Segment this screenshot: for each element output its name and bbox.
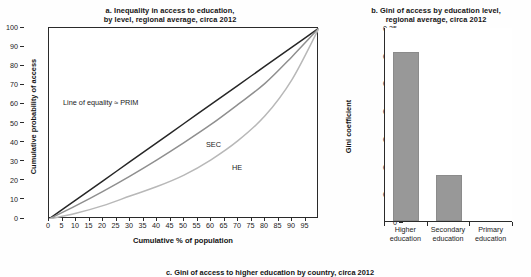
tick-mark — [20, 141, 24, 142]
panel-a-x-tick: 50 — [179, 221, 187, 230]
panel-b-gini-bars: b. Gini of access by education level, re… — [340, 0, 531, 255]
panel-a-y-tick: 100 — [0, 23, 18, 32]
panel-a-lorenz-curves: a. Inequality in access to education, by… — [0, 0, 340, 255]
panel-c-cutoff-title: c. Gini of access to higher education by… — [130, 268, 410, 277]
tick-mark — [20, 65, 24, 66]
tick-mark — [20, 84, 24, 85]
annotation-sec: SEC — [206, 140, 221, 149]
panel-a-x-tick: 10 — [71, 221, 79, 230]
panel-a-y-tick: 80 — [0, 61, 18, 70]
panel-a-x-tick: 35 — [139, 221, 147, 230]
panel-a-y-axis-label: Cumulative probability of access — [29, 32, 38, 202]
panel-a-y-tick: 20 — [0, 175, 18, 184]
panel-b-category-label: Primary education — [464, 226, 518, 243]
panel-a-x-tick: 95 — [301, 221, 309, 230]
panel-a-x-tick: 70 — [233, 221, 241, 230]
panel-a-x-tick: 55 — [193, 221, 201, 230]
bar-higher-education — [393, 52, 419, 221]
panel-a-title: a. Inequality in access to education, by… — [20, 6, 320, 25]
panel-a-x-axis-label: Cumulative % of population — [48, 236, 318, 245]
panel-a-plot-area — [48, 27, 318, 218]
panel-a-x-tick: 75 — [247, 221, 255, 230]
bar-secondary-education — [436, 175, 462, 221]
panel-a-x-tick: 15 — [85, 221, 93, 230]
tick-mark — [20, 46, 24, 47]
tick-mark — [20, 218, 24, 219]
tick-mark — [20, 160, 24, 161]
panel-a-x-tick: 25 — [112, 221, 120, 230]
panel-b-y-axis-label: Gini coefficient — [344, 67, 353, 187]
panel-a-y-tick: 30 — [0, 156, 18, 165]
panel-a-x-tick: 0 — [46, 221, 50, 230]
panel-a-x-tick: 80 — [260, 221, 268, 230]
panel-a-x-tick: 20 — [98, 221, 106, 230]
panel-a-x-tick: 60 — [206, 221, 214, 230]
tick-mark — [20, 198, 24, 199]
tick-mark — [20, 122, 24, 123]
tick-mark — [20, 179, 24, 180]
figure-container: a. Inequality in access to education, by… — [0, 0, 531, 277]
panel-a-x-tick: 40 — [152, 221, 160, 230]
curve-line-of-equality-prim — [49, 28, 319, 219]
panel-a-x-tick: 90 — [287, 221, 295, 230]
panel-a-x-tick: 30 — [125, 221, 133, 230]
tick-mark — [20, 27, 24, 28]
panel-a-y-tick: 70 — [0, 80, 18, 89]
panel-a-y-tick: 10 — [0, 194, 18, 203]
panel-a-x-tick: 85 — [274, 221, 282, 230]
panel-a-y-tick: 90 — [0, 42, 18, 51]
panel-b-title: b. Gini of access by education level, re… — [346, 6, 526, 25]
panel-b-category-tick — [384, 222, 385, 226]
panel-a-y-tick: 0 — [0, 214, 18, 223]
annotation-line-of-equality: Line of equality ≈ PRIM — [63, 98, 138, 107]
panel-a-x-tick: 45 — [166, 221, 174, 230]
annotation-he: HE — [232, 163, 242, 172]
panel-a-curves — [49, 28, 319, 219]
panel-a-x-tick: 65 — [220, 221, 228, 230]
panel-a-y-tick: 50 — [0, 118, 18, 127]
panel-a-x-tick: 5 — [60, 221, 64, 230]
tick-mark — [20, 103, 24, 104]
panel-a-y-tick: 40 — [0, 137, 18, 146]
panel-a-y-tick: 60 — [0, 99, 18, 108]
panel-b-plot-area — [384, 28, 512, 222]
